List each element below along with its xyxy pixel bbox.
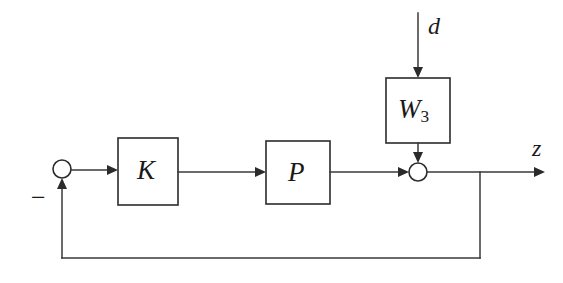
w3-to-sum-arrow xyxy=(413,143,423,163)
error-summing-junction[interactable] xyxy=(53,160,71,178)
disturbance-input-arrow xyxy=(413,13,423,78)
negative-feedback-sign: − xyxy=(31,185,46,211)
plant-to-sum-arrow xyxy=(330,167,409,177)
block-p-label: P xyxy=(288,159,305,186)
controller-to-plant-arrow xyxy=(178,167,266,177)
error-to-controller-arrow xyxy=(71,165,118,175)
output-summing-junction[interactable] xyxy=(409,163,427,181)
block-w3-label-main: W xyxy=(398,94,421,124)
output-signal-label: z xyxy=(532,136,541,160)
block-w3-label: W3 xyxy=(398,96,429,125)
diagram-vector-layer xyxy=(0,0,563,283)
output-signal-arrow xyxy=(427,167,545,177)
disturbance-signal-label: d xyxy=(428,14,440,38)
block-w3-label-subscript: 3 xyxy=(421,107,430,126)
block-diagram-canvas: K P W3 d z − xyxy=(0,0,563,283)
block-k-label: K xyxy=(137,157,155,184)
